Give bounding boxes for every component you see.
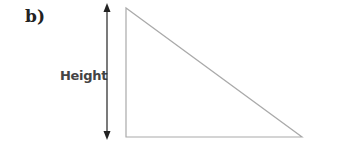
arrow-up-icon: [104, 3, 111, 12]
arrow-down-icon: [104, 131, 111, 140]
diagram-canvas: [0, 0, 354, 143]
right-triangle: [126, 8, 302, 137]
height-arrow: [104, 3, 111, 140]
